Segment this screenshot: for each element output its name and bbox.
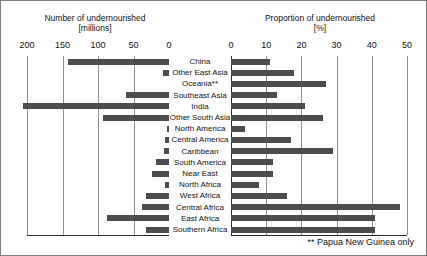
right-axis-tick-30: 30	[325, 39, 349, 51]
left-gridline-150	[63, 56, 64, 235]
bar-right-oceania	[231, 81, 326, 87]
bar-left-china	[68, 59, 169, 65]
right-gridline-50	[407, 56, 408, 235]
left-baseline	[27, 235, 169, 236]
bar-right-north-africa	[231, 182, 259, 188]
bar-right-west-africa	[231, 193, 287, 199]
bar-left-other-south-asia	[103, 115, 169, 121]
right-panel-plot	[231, 56, 407, 235]
bar-left-west-africa	[146, 193, 169, 199]
category-label-caribbean: Caribbean	[169, 146, 231, 157]
bar-right-east-africa	[231, 215, 375, 221]
category-label-near-east: Near East	[169, 168, 231, 179]
right-axis-tick-0: 0	[219, 39, 243, 51]
category-label-south-america: South America	[169, 157, 231, 168]
bar-right-south-america	[231, 159, 273, 165]
category-label-central-america: Central America	[169, 134, 231, 145]
category-label-china: China	[169, 56, 231, 67]
right-axis-tick-labels: 01020304050	[1, 39, 427, 51]
left-gridline-200	[27, 56, 28, 235]
bar-left-central-africa	[142, 204, 169, 210]
right-panel-title: Proportion of undernourished [%]	[229, 13, 411, 33]
bar-right-near-east	[231, 171, 273, 177]
bar-right-china	[231, 59, 270, 65]
bar-right-other-south-asia	[231, 115, 323, 121]
bar-right-other-east-asia	[231, 70, 294, 76]
left-panel-title-line2: [millions]	[15, 23, 175, 33]
left-panel-title-line1: Number of undernourished	[15, 13, 175, 23]
bar-left-south-america	[156, 159, 169, 165]
bar-left-india	[23, 103, 169, 109]
bar-right-india	[231, 103, 305, 109]
bar-left-east-africa	[107, 215, 169, 221]
bar-left-southeast-asia	[126, 92, 169, 98]
right-axis-tick-20: 20	[289, 39, 313, 51]
right-axis-tick-50: 50	[395, 39, 419, 51]
left-gridline-50	[134, 56, 135, 235]
right-axis-tick-40: 40	[360, 39, 384, 51]
bar-right-central-america	[231, 137, 291, 143]
right-panel-title-line2: [%]	[229, 23, 411, 33]
category-label-other-east-asia: Other East Asia	[169, 67, 231, 78]
right-axis-tick-10: 10	[254, 39, 278, 51]
category-label-other-south-asia: Other South Asia	[169, 112, 231, 123]
bar-left-southern-africa	[146, 227, 169, 233]
bar-right-north-america	[231, 126, 245, 132]
category-label-east-africa: East Africa	[169, 213, 231, 224]
category-label-north-africa: North Africa	[169, 179, 231, 190]
bar-right-central-africa	[231, 204, 400, 210]
category-label-southeast-asia: Southeast Asia	[169, 90, 231, 101]
right-panel-title-line1: Proportion of undernourished	[229, 13, 411, 23]
category-label-oceania: Oceania**	[169, 78, 231, 89]
left-panel-title: Number of undernourished [millions]	[15, 13, 175, 33]
bar-right-southern-africa	[231, 227, 375, 233]
bar-left-near-east	[152, 171, 169, 177]
bar-right-caribbean	[231, 148, 333, 154]
category-label-west-africa: West Africa	[169, 190, 231, 201]
footnote: ** Papua New Guinea only	[307, 237, 414, 247]
category-label-india: India	[169, 101, 231, 112]
category-label-north-america: North America	[169, 123, 231, 134]
category-label-column: ChinaOther East AsiaOceania**Southeast A…	[169, 56, 231, 235]
left-gridline-100	[98, 56, 99, 235]
left-panel-plot	[27, 56, 169, 235]
bar-right-southeast-asia	[231, 92, 277, 98]
category-label-central-africa: Central Africa	[169, 202, 231, 213]
category-label-southern-africa: Southern Africa	[169, 224, 231, 235]
chart-frame: Number of undernourished [millions] Prop…	[0, 0, 427, 256]
